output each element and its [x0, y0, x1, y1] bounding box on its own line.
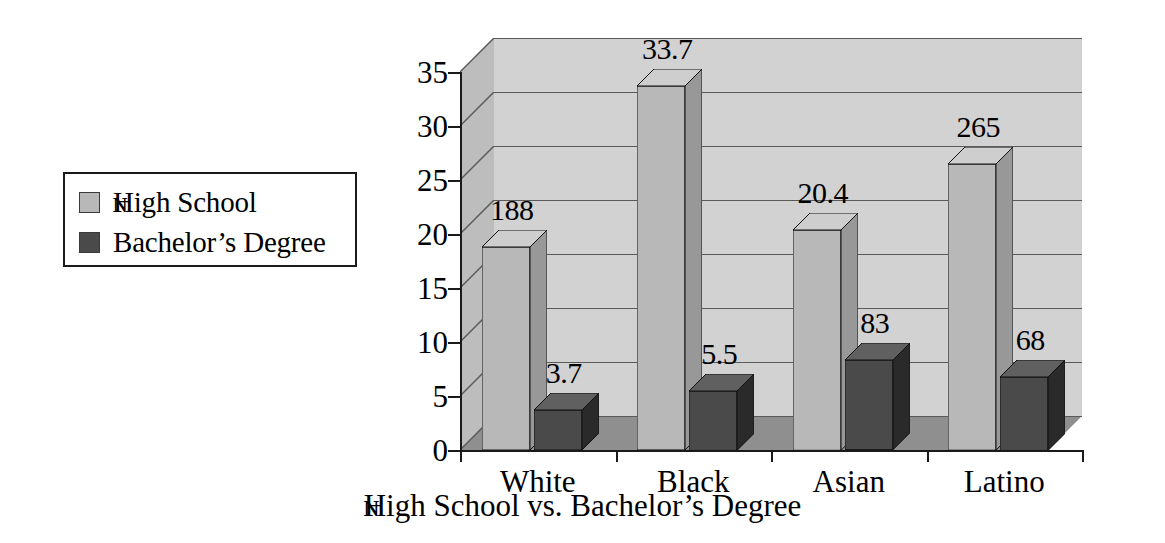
bar-value-label: 188	[490, 195, 534, 225]
bar-geometry	[845, 343, 910, 450]
bar	[689, 374, 754, 450]
gridline-depth-connector	[460, 38, 494, 74]
bar-chart: 05101520253035 1883.733.75.520.48326568 …	[398, 18, 1098, 518]
x-axis-title-text: High School vs. Bachelor’s Degree	[364, 488, 802, 523]
legend-item-bachelors-degree: Bachelor’s Degree	[65, 222, 355, 262]
x-axis-tick-mark	[927, 450, 929, 462]
x-axis-title: ɴHigh School vs. Bachelor’s Degree	[0, 490, 1165, 521]
y-axis-tick-mark	[448, 126, 460, 128]
y-axis-ticks: 05101520253035	[398, 18, 448, 518]
legend-label-text-high-school: High School	[113, 186, 257, 218]
bar	[534, 393, 599, 450]
y-axis-tick-mark	[448, 180, 460, 182]
bar-geometry	[689, 374, 754, 450]
gridline	[494, 92, 1082, 93]
y-axis-line	[460, 72, 462, 450]
y-axis-tick-mark	[448, 234, 460, 236]
x-axis-tick-mark	[460, 450, 462, 462]
bar-value-label: 5.5	[701, 339, 737, 369]
bar-value-label: 265	[957, 112, 1001, 142]
y-axis-tick-label: 35	[404, 57, 448, 88]
y-axis-tick-label: 25	[404, 165, 448, 196]
bar-value-label: 83	[860, 308, 889, 338]
y-axis-tick-label: 15	[404, 273, 448, 304]
legend-swatch-bachelors-degree	[79, 232, 100, 253]
legend-label-bachelors-degree: Bachelor’s Degree	[113, 228, 326, 257]
y-axis-tick-mark	[448, 396, 460, 398]
y-axis-tick-label: 30	[404, 111, 448, 142]
x-axis-tick-mark	[616, 450, 618, 462]
chart-legend: ɴHigh School Bachelor’s Degree	[63, 172, 357, 267]
y-axis-tick-mark	[448, 288, 460, 290]
legend-swatch-high-school	[79, 192, 100, 213]
bar	[1000, 360, 1065, 450]
bar-value-label: 20.4	[798, 178, 849, 208]
y-axis-tick-mark	[448, 72, 460, 74]
bar-value-label: 33.7	[642, 34, 693, 64]
y-axis-tick-label: 10	[404, 327, 448, 358]
gridline	[494, 38, 1082, 39]
legend-label-high-school: ɴHigh School	[113, 188, 257, 217]
bar-geometry	[534, 393, 599, 450]
bar-value-label: 68	[1016, 325, 1045, 355]
y-axis-tick-label: 0	[404, 435, 448, 466]
y-axis-tick-mark	[448, 342, 460, 344]
gridline-depth-connector	[460, 92, 494, 128]
y-axis-tick-label: 20	[404, 219, 448, 250]
y-axis-tick-label: 5	[404, 381, 448, 412]
bar-value-label: 3.7	[546, 358, 582, 388]
legend-item-high-school: ɴHigh School	[65, 182, 355, 222]
x-axis-tick-mark	[1082, 450, 1084, 462]
x-axis-tick-mark	[771, 450, 773, 462]
y-axis-tick-mark	[448, 450, 460, 452]
bar-geometry	[1000, 360, 1065, 450]
gridline-depth-connector	[460, 146, 494, 182]
bar	[845, 343, 910, 450]
